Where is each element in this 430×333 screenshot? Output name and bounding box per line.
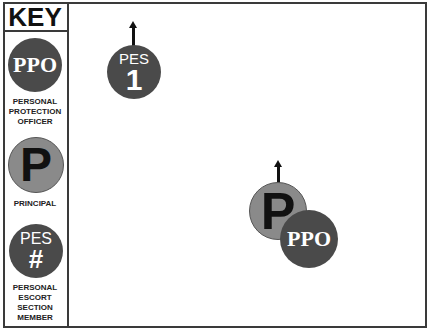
pes1-token[interactable]: PES 1 — [107, 45, 161, 99]
pes-key-symbol: PES # — [9, 224, 63, 278]
principal-key-text: P — [20, 141, 52, 189]
ppo-key-symbol: PPO — [8, 38, 62, 92]
key-title: KEY — [3, 2, 67, 32]
principal-key-label: PRINCIPAL — [3, 199, 67, 209]
pes-key-bottom: # — [29, 247, 43, 271]
key-panel: KEY PPO PERSONAL PROTECTION OFFICER P PR… — [3, 2, 69, 328]
ppo-key-label: PERSONAL PROTECTION OFFICER — [3, 97, 67, 127]
ppo-key-text: PPO — [13, 52, 57, 78]
principal-key-symbol: P — [8, 137, 64, 193]
pes1-direction-arrow-icon — [132, 27, 135, 47]
ppo-token[interactable]: PPO — [280, 210, 338, 268]
ppo-token-text: PPO — [287, 226, 331, 252]
pes-key-label: PERSONAL ESCORT SECTION MEMBER — [3, 283, 67, 323]
pes1-number-text: 1 — [126, 66, 143, 94]
